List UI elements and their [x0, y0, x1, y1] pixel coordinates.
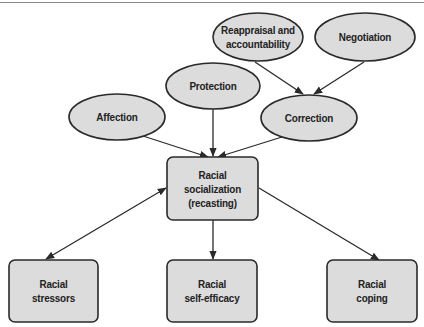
node-socialization-label: Racial socialization (recasting): [170, 157, 255, 220]
node-self-efficacy-label: Racial self-efficacy: [169, 260, 255, 322]
node-stressors-label: Racial stressors: [15, 260, 92, 322]
node-protection-label: Protection: [173, 63, 254, 109]
edge-reappraisal-to-correction: [255, 62, 303, 94]
edge-socialization-to-coping: [259, 188, 379, 260]
node-coping-label: Racial coping: [333, 260, 410, 322]
edge-negotiation-to-correction: [314, 62, 364, 94]
node-reappraisal-label: Reappraisal and accountability: [215, 13, 301, 61]
edge-socialization-stressors-bidirectional: [46, 188, 166, 259]
node-negotiation-label: Negotiation: [322, 13, 408, 61]
node-affection-label: Affection: [76, 94, 159, 140]
node-correction-label: Correction: [268, 95, 351, 141]
